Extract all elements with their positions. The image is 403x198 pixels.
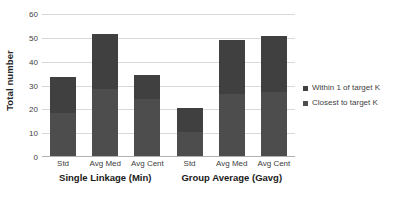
y-axis-title-label: Total number — [4, 50, 15, 111]
y-axis-tick: 30 — [16, 81, 38, 90]
legend-swatch-icon — [303, 101, 308, 106]
x-axis-category-label: Avg Med — [211, 159, 253, 168]
bars-layer — [42, 14, 295, 157]
x-axis-group-label: Single Linkage (Min) — [42, 172, 169, 183]
y-axis-tick: 50 — [16, 33, 38, 42]
y-axis-tick: 20 — [16, 105, 38, 114]
bar-segment — [92, 89, 118, 156]
y-axis-tick: 0 — [16, 153, 38, 162]
legend-label: Within 1 of target K — [312, 84, 380, 92]
bar-segment — [261, 36, 287, 92]
y-axis-tick: 40 — [16, 57, 38, 66]
legend-item[interactable]: Closest to target K — [303, 99, 401, 107]
y-axis-tick-labels: 0102030405060 — [16, 14, 38, 157]
bar — [134, 75, 160, 156]
x-axis-category-label: Avg Cent — [126, 159, 168, 168]
bar-segment — [177, 108, 203, 132]
bar-segment — [50, 77, 76, 113]
stacked-bar-chart: Total number 0102030405060 StdAvg MedAvg… — [0, 0, 403, 198]
y-axis-tick: 60 — [16, 10, 38, 19]
legend-label: Closest to target K — [312, 99, 378, 107]
bar-segment — [219, 94, 245, 156]
bar-segment — [261, 92, 287, 156]
plot-area — [42, 14, 295, 157]
x-axis-category-label: Std — [42, 159, 84, 168]
bar-segment — [50, 113, 76, 156]
bar-segment — [177, 132, 203, 156]
x-axis-category-label: Std — [169, 159, 211, 168]
x-axis-group-label: Group Average (Gavg) — [169, 172, 296, 183]
y-axis-title: Total number — [2, 0, 16, 160]
bar-segment — [134, 99, 160, 156]
bar — [177, 108, 203, 156]
legend-item[interactable]: Within 1 of target K — [303, 84, 401, 92]
x-axis-category-label: Avg Cent — [253, 159, 295, 168]
legend-swatch-icon — [303, 86, 308, 91]
bar — [261, 36, 287, 156]
bar — [92, 34, 118, 156]
bar-segment — [134, 75, 160, 99]
x-axis-category-labels: StdAvg MedAvg CentStdAvg MedAvg Cent — [42, 158, 295, 172]
x-axis-group-labels: Single Linkage (Min)Group Average (Gavg) — [42, 172, 295, 188]
chart-legend: Within 1 of target KClosest to target K — [303, 84, 401, 114]
bar — [219, 40, 245, 156]
x-axis-category-label: Avg Med — [84, 159, 126, 168]
y-axis-tick: 10 — [16, 129, 38, 138]
bar-segment — [92, 34, 118, 89]
bar — [50, 77, 76, 156]
bar-segment — [219, 40, 245, 94]
